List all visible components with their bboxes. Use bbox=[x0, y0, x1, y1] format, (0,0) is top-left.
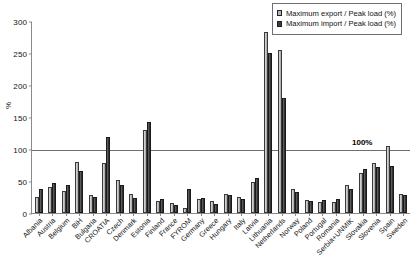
bar-import bbox=[322, 200, 326, 213]
bar-import bbox=[201, 198, 205, 213]
x-axis-label-cell: Serbia+UNMIK bbox=[342, 214, 356, 271]
bar-group bbox=[194, 22, 208, 213]
bar-import bbox=[349, 189, 353, 213]
legend-item: Maximum export / Peak load (%) bbox=[277, 9, 396, 18]
bar-import bbox=[295, 192, 299, 213]
bar-group bbox=[289, 22, 303, 213]
bar-group bbox=[167, 22, 181, 213]
bar-import bbox=[79, 171, 83, 213]
plot-area: 050100150200250300 bbox=[31, 22, 410, 214]
legend-swatch-import bbox=[277, 21, 282, 27]
bar-import bbox=[268, 53, 272, 213]
bar-group bbox=[221, 22, 235, 213]
bar-import bbox=[106, 137, 110, 213]
bar-group bbox=[343, 22, 357, 213]
x-axis-label-cell: Finland bbox=[153, 214, 167, 271]
chart-legend: Maximum export / Peak load (%)Maximum im… bbox=[272, 3, 402, 35]
bar-group bbox=[316, 22, 330, 213]
x-axis-label-cell: Germany bbox=[193, 214, 207, 271]
x-axis-label-cell: Estonia bbox=[139, 214, 153, 271]
bar-import bbox=[255, 178, 259, 213]
x-axis-label-cell: France bbox=[166, 214, 180, 271]
bar-group bbox=[100, 22, 114, 213]
y-axis-label: % bbox=[4, 102, 13, 109]
bar-import bbox=[376, 167, 380, 213]
x-axis-label-cell: Poland bbox=[302, 214, 316, 271]
bar-group bbox=[356, 22, 370, 213]
bar-group bbox=[140, 22, 154, 213]
bar-group bbox=[397, 22, 411, 213]
bar-import bbox=[147, 122, 151, 213]
bar-import bbox=[39, 189, 43, 213]
bar-import bbox=[228, 195, 232, 213]
bar-group bbox=[127, 22, 141, 213]
bar-group bbox=[86, 22, 100, 213]
bar-group bbox=[73, 22, 87, 213]
bar-chart: 050100150200250300 % 100% AlbaniaAustria… bbox=[0, 0, 415, 271]
bar-import bbox=[214, 204, 218, 213]
bar-group bbox=[113, 22, 127, 213]
x-axis-label-cell: Hungary bbox=[220, 214, 234, 271]
bar-group bbox=[208, 22, 222, 213]
bar-group bbox=[46, 22, 60, 213]
legend-label: Maximum export / Peak load (%) bbox=[286, 9, 396, 18]
bar-import bbox=[93, 197, 97, 213]
legend-label: Maximum import / Peak load (%) bbox=[286, 19, 396, 28]
reference-line-label: 100% bbox=[352, 138, 372, 147]
x-axis-label-cell: Spain bbox=[383, 214, 397, 271]
bar-group bbox=[32, 22, 46, 213]
bar-import bbox=[160, 199, 164, 213]
bar-group bbox=[154, 22, 168, 213]
x-axis-label-cell: Slovakia bbox=[356, 214, 370, 271]
legend-swatch-export bbox=[277, 10, 282, 16]
bar-group bbox=[248, 22, 262, 213]
bar-import bbox=[363, 169, 367, 213]
bar-group bbox=[329, 22, 343, 213]
legend-item: Maximum import / Peak load (%) bbox=[277, 19, 396, 28]
bar-import bbox=[241, 199, 245, 213]
bar-group bbox=[383, 22, 397, 213]
x-axis-label-cell: FYROM bbox=[180, 214, 194, 271]
bar-group bbox=[275, 22, 289, 213]
bar-import bbox=[282, 98, 286, 213]
bar-group bbox=[235, 22, 249, 213]
bar-group bbox=[370, 22, 384, 213]
bar-import bbox=[403, 195, 407, 213]
bar-import bbox=[133, 198, 137, 213]
x-axis-label-cell: Austria bbox=[45, 214, 59, 271]
x-axis-label-cell: BiH bbox=[72, 214, 86, 271]
bar-import bbox=[336, 199, 340, 213]
x-axis-labels: AlbaniaAustriaBelgiumBiHBulgariaCROATIAC… bbox=[31, 214, 410, 271]
bar-import bbox=[120, 185, 124, 213]
bar-import bbox=[187, 189, 191, 213]
x-axis-label-cell: CROATIA bbox=[99, 214, 113, 271]
bar-import bbox=[309, 201, 313, 213]
bar-group bbox=[59, 22, 73, 213]
bar-import bbox=[174, 205, 178, 213]
bar-import bbox=[66, 185, 70, 213]
bar-import bbox=[390, 166, 394, 213]
bar-import bbox=[52, 183, 56, 213]
bar-group bbox=[181, 22, 195, 213]
x-axis-label-cell: Greece bbox=[207, 214, 221, 271]
bar-group bbox=[262, 22, 276, 213]
x-axis-label-cell: Slovenia bbox=[369, 214, 383, 271]
x-axis-label-cell: Netherlands bbox=[275, 214, 289, 271]
bar-series-container bbox=[32, 22, 410, 213]
bar-group bbox=[302, 22, 316, 213]
x-axis-label-cell: Sweden bbox=[396, 214, 410, 271]
x-axis-label-cell: Denmark bbox=[126, 214, 140, 271]
